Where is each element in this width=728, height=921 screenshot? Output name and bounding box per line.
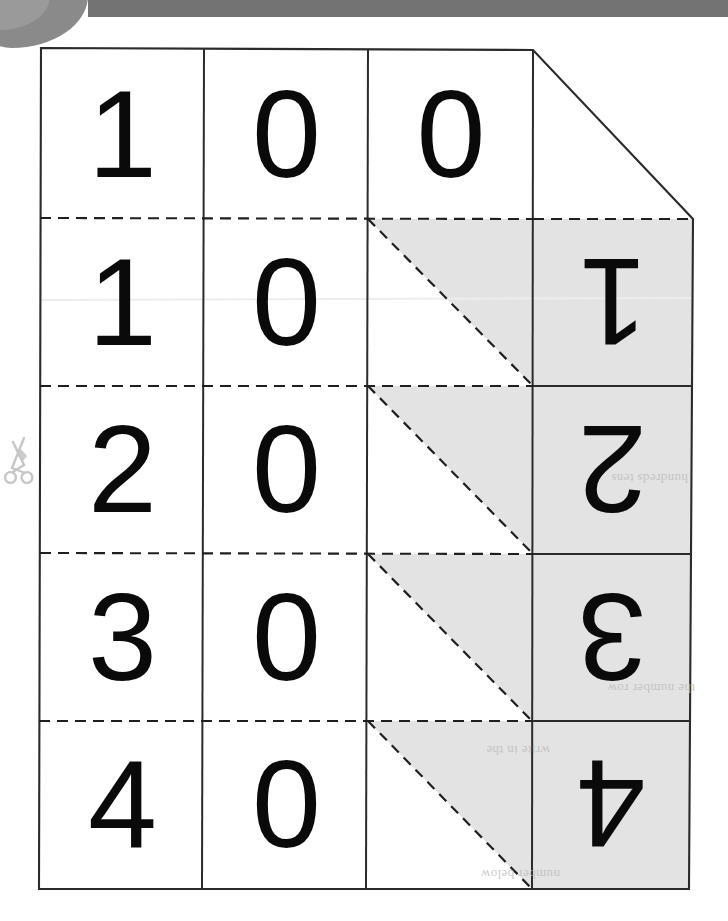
cell-digit-r3c1: 2 bbox=[41, 407, 204, 531]
cell-digit-r2c4: 1 bbox=[533, 240, 693, 364]
cell-digit-r3c4: 2 bbox=[533, 407, 692, 531]
showthrough-text-3: write in the bbox=[400, 742, 550, 758]
cell-digit-r4c2: 0 bbox=[205, 575, 368, 699]
cell-digit-r5c2: 0 bbox=[205, 742, 368, 866]
cell-digit-r1c1: 1 bbox=[41, 72, 204, 196]
fold-rule-3 bbox=[40, 553, 533, 554]
cell-digit-r3c2: 0 bbox=[205, 407, 368, 531]
cell-digit-r5c4: 4 bbox=[532, 742, 690, 866]
cell-digit-r4c4: 3 bbox=[533, 575, 691, 699]
cell-digit-r4c1: 3 bbox=[41, 575, 204, 699]
cell-digit-r1c3: 0 bbox=[369, 72, 533, 196]
cell-digit-r2c2: 0 bbox=[205, 240, 368, 364]
showthrough-text-4: number below bbox=[400, 866, 560, 882]
cell-digit-r1c2: 0 bbox=[205, 72, 368, 196]
cell-digit-r2c1: 1 bbox=[41, 240, 204, 364]
fold-rule-1 bbox=[40, 218, 533, 219]
scanned-page: hundreds tens the number row write in th… bbox=[0, 0, 728, 921]
cell-digit-r5c1: 4 bbox=[41, 742, 204, 866]
